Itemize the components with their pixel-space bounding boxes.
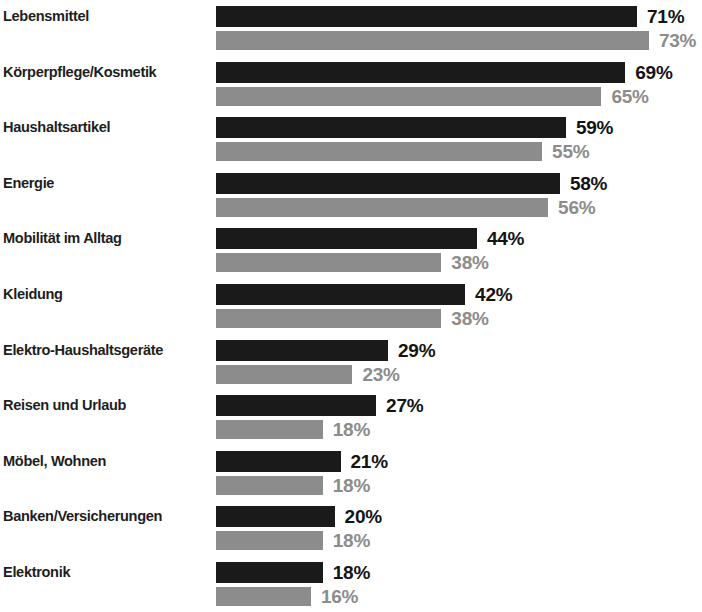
bar-rect-secondary — [216, 253, 441, 272]
bar-value-label-primary: 71% — [647, 7, 684, 26]
bar-chart: Lebensmittel71%73%Körperpflege/Kosmetik6… — [0, 0, 702, 612]
bar-rect-primary — [216, 284, 465, 305]
bar-rect-secondary — [216, 476, 323, 495]
bar-group: 71%73% — [216, 0, 702, 56]
bar-value-label-secondary: 73% — [659, 31, 696, 50]
bar-rect-secondary — [216, 420, 323, 439]
chart-row: Banken/Versicherungen20%18% — [0, 500, 702, 556]
bar-secondary: 38% — [216, 253, 489, 272]
bar-rect-primary — [216, 117, 566, 138]
bar-primary: 27% — [216, 395, 424, 416]
bar-secondary: 55% — [216, 142, 590, 161]
bar-primary: 21% — [216, 451, 388, 472]
bar-value-label-secondary: 18% — [333, 531, 370, 550]
bar-rect-primary — [216, 562, 323, 583]
bar-value-label-secondary: 18% — [333, 476, 370, 495]
bar-group: 59%55% — [216, 111, 702, 167]
bar-primary: 58% — [216, 173, 607, 194]
bar-value-label-secondary: 38% — [451, 253, 488, 272]
bar-value-label-secondary: 16% — [321, 587, 358, 606]
chart-row: Lebensmittel71%73% — [0, 0, 702, 56]
bar-primary: 59% — [216, 117, 613, 138]
category-label: Lebensmittel — [3, 6, 199, 26]
category-label: Körperpflege/Kosmetik — [3, 62, 199, 82]
bar-rect-primary — [216, 228, 477, 249]
bar-secondary: 73% — [216, 31, 696, 50]
chart-row: Kleidung42%38% — [0, 278, 702, 334]
bar-rect-primary — [216, 173, 560, 194]
bar-rect-secondary — [216, 531, 323, 550]
bar-secondary: 18% — [216, 476, 370, 495]
bar-primary: 42% — [216, 284, 513, 305]
chart-row: Elektro-Haushaltsgeräte29%23% — [0, 334, 702, 390]
bar-value-label-primary: 29% — [398, 341, 435, 360]
bar-group: 44%38% — [216, 222, 702, 278]
category-label: Mobilität im Alltag — [3, 228, 199, 248]
category-label: Haushaltsartikel — [3, 117, 199, 137]
bar-rect-primary — [216, 62, 625, 83]
bar-value-label-secondary: 38% — [451, 309, 488, 328]
bar-group: 69%65% — [216, 56, 702, 112]
chart-row: Energie58%56% — [0, 167, 702, 223]
bar-secondary: 56% — [216, 198, 596, 217]
bar-value-label-primary: 20% — [345, 507, 382, 526]
bar-primary: 20% — [216, 506, 382, 527]
chart-row: Körperpflege/Kosmetik69%65% — [0, 56, 702, 112]
bar-rect-secondary — [216, 587, 311, 606]
bar-primary: 29% — [216, 340, 435, 361]
bar-rect-secondary — [216, 309, 441, 328]
bar-rect-primary — [216, 395, 376, 416]
bar-rect-primary — [216, 6, 637, 27]
bar-group: 20%18% — [216, 500, 702, 556]
bar-value-label-primary: 18% — [333, 563, 370, 582]
bar-secondary: 38% — [216, 309, 489, 328]
bar-value-label-secondary: 55% — [552, 142, 589, 161]
bar-secondary: 18% — [216, 420, 370, 439]
bar-rect-secondary — [216, 365, 352, 384]
bar-primary: 69% — [216, 62, 673, 83]
category-label: Kleidung — [3, 284, 199, 304]
bar-rect-secondary — [216, 142, 542, 161]
bar-group: 29%23% — [216, 334, 702, 390]
bar-value-label-secondary: 23% — [362, 365, 399, 384]
bar-rect-secondary — [216, 87, 601, 106]
bar-secondary: 18% — [216, 531, 370, 550]
category-label: Möbel, Wohnen — [3, 451, 199, 471]
bar-value-label-primary: 69% — [635, 63, 672, 82]
category-label: Reisen und Urlaub — [3, 395, 199, 415]
bar-primary: 44% — [216, 228, 524, 249]
category-label: Banken/Versicherungen — [3, 506, 199, 526]
bar-secondary: 23% — [216, 365, 400, 384]
bar-group: 18%16% — [216, 556, 702, 612]
bar-primary: 71% — [216, 6, 684, 27]
bar-value-label-primary: 44% — [487, 229, 524, 248]
bar-rect-secondary — [216, 31, 649, 50]
chart-row: Reisen und Urlaub27%18% — [0, 389, 702, 445]
bar-group: 21%18% — [216, 445, 702, 501]
bar-value-label-primary: 58% — [570, 174, 607, 193]
chart-row: Elektronik18%16% — [0, 556, 702, 612]
bar-group: 27%18% — [216, 389, 702, 445]
chart-row: Haushaltsartikel59%55% — [0, 111, 702, 167]
bar-rect-secondary — [216, 198, 548, 217]
bar-rect-primary — [216, 451, 341, 472]
bar-value-label-primary: 27% — [386, 396, 423, 415]
bar-secondary: 65% — [216, 87, 649, 106]
bar-value-label-primary: 21% — [351, 452, 388, 471]
bar-value-label-secondary: 65% — [611, 87, 648, 106]
bar-secondary: 16% — [216, 587, 358, 606]
category-label: Elektro-Haushaltsgeräte — [3, 340, 199, 360]
category-label: Elektronik — [3, 562, 199, 582]
bar-value-label-secondary: 56% — [558, 198, 595, 217]
category-label: Energie — [3, 173, 199, 193]
chart-row: Möbel, Wohnen21%18% — [0, 445, 702, 501]
chart-row: Mobilität im Alltag44%38% — [0, 222, 702, 278]
bar-value-label-secondary: 18% — [333, 420, 370, 439]
bar-group: 42%38% — [216, 278, 702, 334]
bar-rect-primary — [216, 340, 388, 361]
bar-value-label-primary: 42% — [475, 285, 512, 304]
bar-primary: 18% — [216, 562, 370, 583]
bar-value-label-primary: 59% — [576, 118, 613, 137]
bar-group: 58%56% — [216, 167, 702, 223]
bar-rect-primary — [216, 506, 335, 527]
